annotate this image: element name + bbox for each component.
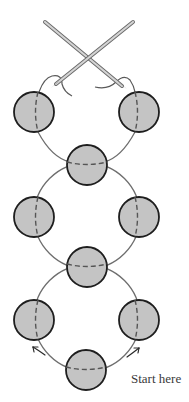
needle-left-to-right [45, 22, 127, 89]
bead-middle-2 [67, 247, 107, 287]
thread-arc [38, 132, 70, 162]
bead-top-right [119, 92, 159, 132]
bead-top-left [14, 92, 54, 132]
bead-bottom [66, 350, 106, 390]
bead-right-2 [119, 197, 159, 237]
start-here-label: Start here [131, 371, 181, 387]
arrow-right-icon [127, 348, 139, 357]
bead-middle-1 [67, 145, 107, 185]
beading-diagram [0, 0, 189, 402]
beads [14, 92, 159, 390]
bead-bottom-right [119, 300, 159, 340]
bead-bottom-left [14, 300, 54, 340]
bead-left-2 [14, 197, 54, 237]
thread-arc [104, 132, 135, 162]
